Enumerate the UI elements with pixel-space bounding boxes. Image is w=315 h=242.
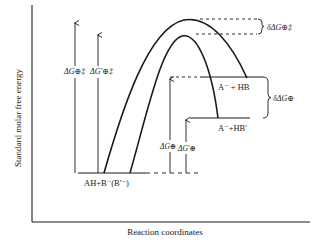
- x-axis-label: Reaction coordinates: [127, 227, 203, 237]
- delta-dG-label: δΔG⊕: [273, 94, 294, 103]
- dG-prime-label: ΔG′⊕: [177, 144, 196, 153]
- free-energy-diagram: Standard molar free energy Reaction coor…: [0, 0, 315, 242]
- dG-prime-activation-label: ΔG′⊕‡: [89, 67, 114, 76]
- dG-label: ΔG⊕: [159, 142, 176, 151]
- dG-activation-label: ΔG⊕‡: [63, 67, 86, 76]
- reactants-label: AH+B⁻(B′⁻): [84, 178, 129, 188]
- y-axis-label: Standard molar free energy: [13, 68, 23, 167]
- delta-dG-activation-label: δΔG⊕‡: [267, 23, 293, 32]
- brace-reaction-icon: [263, 77, 271, 118]
- products-2-label: A⁻+HB′: [218, 123, 247, 133]
- brace-activation-icon: [258, 19, 264, 34]
- reaction-curve-inner: [130, 36, 218, 173]
- products-1-label: A⁻ + HB: [218, 82, 250, 92]
